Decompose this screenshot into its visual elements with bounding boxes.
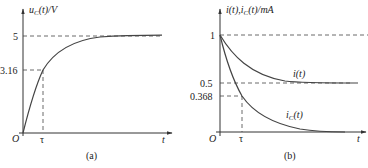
origin-label-a: O (12, 133, 19, 144)
caption-b: (b) (284, 150, 296, 162)
tick-label-0.5: 0.5 (200, 78, 213, 89)
tick-label-0.368: 0.368 (190, 91, 213, 102)
tick-label-3.16: 3.16 (0, 65, 18, 76)
tick-label-tau-a: τ (40, 134, 44, 145)
chart-a: uC(t)/V 5 3.16 τ O t (a) (0, 4, 172, 162)
x-axis-label-a: t (162, 134, 165, 145)
figure: uC(t)/V 5 3.16 τ O t (a) i(t),iC(t)/mA 1… (0, 0, 368, 168)
tick-label-1: 1 (210, 30, 215, 41)
i-curve (220, 35, 358, 83)
series-label-i: i(t) (293, 68, 306, 80)
uc-curve (23, 35, 162, 133)
origin-label-b: O (209, 133, 216, 144)
caption-a: (a) (86, 150, 97, 162)
tick-label-5: 5 (13, 31, 18, 42)
y-axis-label-b: i(t),iC(t)/mA (226, 4, 275, 17)
tick-label-tau-b: τ (239, 133, 243, 144)
x-axis-label-b: t (357, 133, 360, 144)
ic-curve (220, 35, 345, 132)
series-label-ic: iC(t) (286, 109, 304, 122)
y-axis-label-a: uC(t)/V (29, 4, 59, 17)
chart-b: i(t),iC(t)/mA 1 0.5 0.368 τ O t i(t) iC(… (190, 4, 368, 162)
